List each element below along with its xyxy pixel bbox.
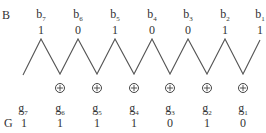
xor-icon [203, 84, 212, 93]
xor-icon [56, 84, 65, 93]
gray-bit-value: 1 [204, 117, 210, 129]
xor-icon [130, 84, 139, 93]
xor-icon [166, 84, 175, 93]
gray-bit-value: 0 [167, 117, 173, 129]
zigzag-connection-line [23, 39, 260, 75]
gray-bit-value: 1 [57, 117, 63, 129]
xor-icon [239, 84, 248, 93]
xor-icon [93, 84, 102, 93]
gray-bit-value: 1 [94, 117, 100, 129]
gray-bit-value: 1 [131, 117, 137, 129]
gray-bit-value: 1 [21, 117, 27, 129]
gray-bit-value: 0 [240, 117, 246, 129]
gray-row-label: G [4, 117, 13, 129]
